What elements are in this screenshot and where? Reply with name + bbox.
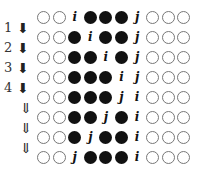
empty-circle-icon: [177, 11, 190, 24]
filled-circle-icon: [115, 111, 128, 124]
empty-circle-icon: [177, 51, 190, 64]
empty-circle-icon: [162, 91, 175, 104]
pointer-i: i: [131, 151, 144, 164]
empty-circle-icon: [146, 51, 159, 64]
step-label: 4: [4, 80, 12, 96]
filled-circle-icon: [84, 11, 97, 24]
empty-circle-icon: [53, 131, 66, 144]
pointer-i: i: [115, 71, 128, 84]
empty-circle-icon: [162, 51, 175, 64]
empty-circle-icon: [37, 51, 50, 64]
filled-circle-icon: [68, 111, 81, 124]
step-label: 2: [4, 40, 12, 56]
empty-circle-icon: [37, 11, 50, 24]
empty-circle-icon: [162, 71, 175, 84]
empty-circle-icon: [146, 131, 159, 144]
pointer-j: j: [131, 51, 144, 64]
empty-circle-icon: [177, 131, 190, 144]
filled-circle-icon: [99, 11, 112, 24]
filled-circle-icon: [115, 131, 128, 144]
diagram-row: 3⬇ij: [0, 70, 204, 86]
pointer-j: j: [131, 11, 144, 24]
empty-circle-icon: [162, 111, 175, 124]
empty-circle-icon: [146, 91, 159, 104]
hollow-down-arrow-icon: ⇓: [20, 120, 32, 136]
empty-circle-icon: [53, 91, 66, 104]
pointer-j: j: [99, 111, 112, 124]
pointer-i: i: [131, 131, 144, 144]
filled-circle-icon: [99, 151, 112, 164]
solid-down-arrow-icon: ⬇: [17, 60, 29, 76]
empty-circle-icon: [177, 91, 190, 104]
filled-circle-icon: [99, 31, 112, 44]
empty-circle-icon: [162, 11, 175, 24]
filled-circle-icon: [84, 71, 97, 84]
empty-circle-icon: [37, 71, 50, 84]
empty-circle-icon: [37, 91, 50, 104]
pointer-j: j: [131, 31, 144, 44]
filled-circle-icon: [115, 51, 128, 64]
empty-circle-icon: [53, 31, 66, 44]
filled-circle-icon: [68, 51, 81, 64]
filled-circle-icon: [84, 51, 97, 64]
pointer-i: i: [68, 11, 81, 24]
solid-down-arrow-icon: ⬇: [17, 20, 29, 36]
empty-circle-icon: [177, 31, 190, 44]
filled-circle-icon: [115, 31, 128, 44]
solid-down-arrow-icon: ⬇: [17, 40, 29, 56]
diagram-row: ij: [0, 10, 204, 26]
empty-circle-icon: [146, 71, 159, 84]
filled-circle-icon: [84, 91, 97, 104]
empty-circle-icon: [162, 151, 175, 164]
pointer-i: i: [131, 111, 144, 124]
filled-circle-icon: [68, 31, 81, 44]
empty-circle-icon: [53, 151, 66, 164]
empty-circle-icon: [162, 31, 175, 44]
empty-circle-icon: [146, 11, 159, 24]
hollow-down-arrow-icon: ⇓: [20, 140, 32, 156]
empty-circle-icon: [53, 51, 66, 64]
empty-circle-icon: [146, 151, 159, 164]
filled-circle-icon: [68, 71, 81, 84]
pointer-j: j: [131, 71, 144, 84]
pointer-j: j: [84, 131, 97, 144]
filled-circle-icon: [99, 131, 112, 144]
diagram-row: 2⬇ij: [0, 50, 204, 66]
solid-down-arrow-icon: ⬇: [17, 80, 29, 96]
empty-circle-icon: [146, 31, 159, 44]
empty-circle-icon: [53, 11, 66, 24]
filled-circle-icon: [115, 11, 128, 24]
empty-circle-icon: [146, 111, 159, 124]
diagram-row: 1⬇ij: [0, 30, 204, 46]
pointer-i: i: [99, 51, 112, 64]
filled-circle-icon: [68, 131, 81, 144]
filled-circle-icon: [99, 91, 112, 104]
pointer-i: i: [131, 91, 144, 104]
empty-circle-icon: [162, 131, 175, 144]
empty-circle-icon: [37, 151, 50, 164]
empty-circle-icon: [53, 71, 66, 84]
diagram-row: ⇓ji: [0, 150, 204, 166]
filled-circle-icon: [115, 151, 128, 164]
filled-circle-icon: [68, 91, 81, 104]
filled-circle-icon: [84, 111, 97, 124]
empty-circle-icon: [37, 111, 50, 124]
filled-circle-icon: [99, 71, 112, 84]
empty-circle-icon: [37, 31, 50, 44]
empty-circle-icon: [177, 71, 190, 84]
pointer-j: j: [115, 91, 128, 104]
step-label: 3: [4, 60, 12, 76]
pointer-j: j: [68, 151, 81, 164]
step-label: 1: [4, 20, 12, 36]
filled-circle-icon: [84, 151, 97, 164]
pointer-i: i: [84, 31, 97, 44]
empty-circle-icon: [53, 111, 66, 124]
empty-circle-icon: [37, 131, 50, 144]
empty-circle-icon: [177, 151, 190, 164]
hollow-down-arrow-icon: ⇓: [20, 100, 32, 116]
empty-circle-icon: [177, 111, 190, 124]
